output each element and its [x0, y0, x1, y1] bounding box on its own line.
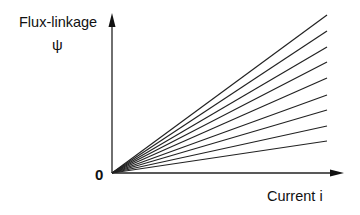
y-axis-symbol: ψ — [52, 36, 63, 53]
y-axis-arrow-icon — [109, 13, 116, 27]
magnetization-line — [112, 95, 327, 173]
y-axis-label: Flux-linkage — [19, 14, 97, 30]
origin-label: 0 — [95, 166, 103, 183]
x-axis-label: Current i — [267, 188, 323, 204]
magnetization-lines — [112, 15, 327, 173]
magnetization-line — [112, 78, 327, 173]
magnetization-line — [112, 110, 327, 173]
x-axis-arrow-icon — [330, 170, 344, 177]
magnetization-line — [112, 47, 327, 173]
magnetization-line — [112, 62, 327, 173]
magnetization-line — [112, 31, 327, 173]
flux-current-diagram — [0, 0, 360, 215]
